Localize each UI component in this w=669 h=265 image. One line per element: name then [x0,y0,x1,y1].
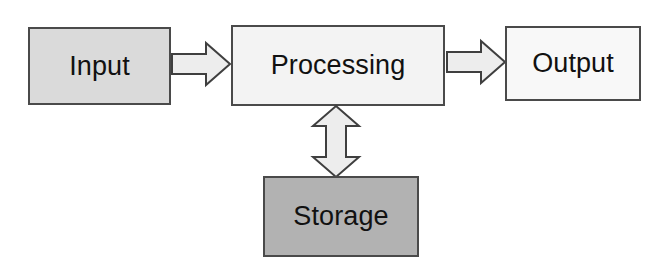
node-label-processing: Processing [271,52,406,79]
double-headed-vertical-arrow-icon [313,106,359,177]
arrow-input-to-processing [170,40,232,88]
arrow-processing-to-output [445,38,507,86]
node-label-output: Output [532,50,614,77]
right-arrow-icon [172,43,230,85]
diagram-node-output[interactable]: Output [505,26,641,101]
node-label-storage: Storage [293,203,388,230]
diagram-node-storage[interactable]: Storage [263,176,419,257]
diagram-node-processing[interactable]: Processing [231,25,445,106]
diagram-canvas: Input Processing Output Storage [0,0,669,265]
right-arrow-icon [447,41,505,83]
diagram-node-input[interactable]: Input [28,27,171,105]
node-label-input: Input [69,53,130,80]
arrow-processing-to-storage [310,104,362,179]
